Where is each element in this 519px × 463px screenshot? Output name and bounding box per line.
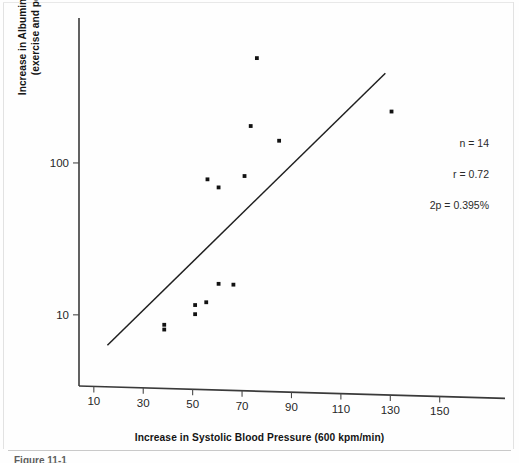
data-point	[217, 186, 221, 190]
regression-line-segment	[107, 73, 385, 345]
data-point	[162, 323, 166, 327]
data-point	[277, 139, 281, 143]
x-tick-label: 70	[236, 400, 249, 412]
data-point	[255, 56, 259, 60]
x-tick-label: 90	[285, 401, 298, 413]
data-point	[162, 328, 166, 332]
x-tick-label: 110	[332, 403, 350, 415]
figure-caption: Figure 11-1	[14, 455, 67, 463]
y-axis-title: Increase in Albumin Excretion Rate (µg/m…	[16, 0, 42, 96]
stat-r: r = 0.72	[453, 168, 489, 180]
data-points	[162, 56, 393, 331]
data-point	[243, 174, 247, 178]
regression-line	[107, 73, 385, 345]
stats-annotations: n = 14r = 0.722p = 0.395%	[430, 137, 489, 211]
axis-tick-labels: 103050709011013015010100	[50, 157, 449, 418]
data-point	[232, 283, 236, 287]
footer-divider	[8, 450, 511, 451]
y-axis-title-line2: (exercise and postexercise periods)	[29, 0, 42, 96]
data-point	[390, 110, 394, 114]
data-point	[217, 282, 221, 286]
data-point	[193, 303, 197, 307]
data-point	[249, 124, 253, 128]
x-tick-label: 10	[87, 395, 100, 407]
stat-n: n = 14	[460, 137, 490, 149]
x-axis-title: Increase in Systolic Blood Pressure (600…	[0, 432, 519, 443]
stat-p: 2p = 0.395%	[430, 199, 489, 211]
data-point	[206, 177, 210, 181]
figure-container: 103050709011013015010100 n = 14r = 0.722…	[0, 0, 519, 463]
data-point	[204, 300, 208, 304]
y-tick-label: 10	[56, 309, 69, 321]
data-point	[193, 312, 197, 316]
x-tick-label: 130	[381, 404, 400, 416]
y-axis-title-line1: Increase in Albumin Excretion Rate (µg/m…	[16, 0, 29, 96]
y-tick-label: 100	[50, 157, 69, 169]
scatter-plot: 103050709011013015010100 n = 14r = 0.722…	[0, 0, 519, 463]
x-tick-label: 150	[430, 405, 449, 417]
x-tick-label: 50	[186, 398, 199, 410]
x-tick-label: 30	[137, 397, 150, 409]
